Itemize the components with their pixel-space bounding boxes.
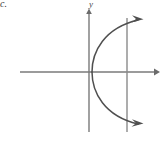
- y-axis-group: [86, 9, 92, 133]
- arrow-right-icon: [154, 69, 160, 76]
- figure-container: c. y: [0, 0, 163, 143]
- curve-upper-branch: [92, 20, 138, 72]
- graph-canvas: [0, 0, 163, 143]
- x-axis-group: [20, 69, 160, 76]
- curve-lower-branch: [92, 72, 138, 124]
- arrow-up-icon: [86, 9, 92, 15]
- curve-upper-arrowhead: [132, 15, 144, 22]
